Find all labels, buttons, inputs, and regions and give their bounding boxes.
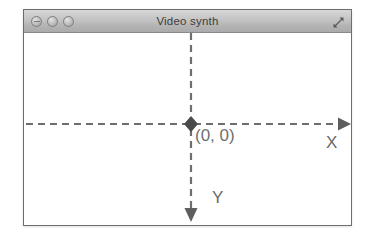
origin-coordinate-label: (0, 0) (195, 126, 235, 146)
close-button[interactable] (31, 16, 42, 27)
x-axis-arrowhead (338, 118, 351, 131)
window-titlebar[interactable]: Video synth (24, 10, 351, 33)
coordinate-axes (24, 33, 351, 225)
zoom-button[interactable] (63, 16, 74, 27)
minimize-button[interactable] (47, 16, 58, 27)
application-window: Video synth (0, 0) X Y (23, 9, 352, 226)
window-controls-group (31, 10, 74, 33)
y-axis-arrowhead (185, 208, 198, 222)
plot-canvas[interactable]: (0, 0) X Y (24, 33, 351, 225)
x-axis-label: X (326, 133, 337, 153)
y-axis-label: Y (212, 188, 223, 208)
resize-maximize-icon[interactable] (332, 15, 345, 28)
